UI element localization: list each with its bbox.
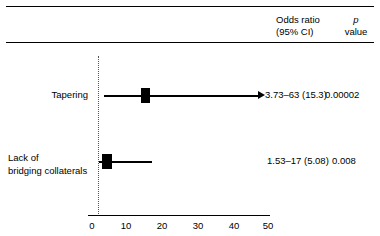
row-label-tapering: Tapering bbox=[0, 89, 88, 102]
cell-p-value-tapering: 0.00002 bbox=[325, 89, 359, 101]
cell-p-value-lack-of-bridging-collaterals: 0.008 bbox=[332, 155, 356, 167]
x-axis-tick-30: 30 bbox=[186, 220, 210, 232]
confidence-interval-arrow-tapering bbox=[258, 91, 265, 99]
plot-area: Tapering 3.73–63 (15.3) 0.00002 Lack of … bbox=[0, 0, 380, 236]
x-axis-line bbox=[88, 215, 270, 216]
cell-odds-ratio-tapering: 3.73–63 (15.3) bbox=[265, 89, 327, 101]
row-label-lack-of-bridging-collaterals-line2: bridging collaterals bbox=[8, 165, 88, 178]
x-axis-tick-10: 10 bbox=[114, 220, 138, 232]
row-label-tapering-line1: Tapering bbox=[0, 89, 88, 102]
x-axis-tick-20: 20 bbox=[150, 220, 174, 232]
row-label-lack-of-bridging-collaterals: Lack of bridging collaterals bbox=[0, 152, 88, 177]
reference-line bbox=[98, 56, 99, 216]
confidence-interval-line-tapering bbox=[104, 95, 260, 97]
x-axis-tick-50: 50 bbox=[256, 220, 280, 232]
point-estimate-marker-tapering bbox=[141, 88, 150, 103]
forest-plot-figure: Odds ratio (95% CI) p value Tapering 3.7… bbox=[0, 0, 380, 236]
x-axis-tick-0: 0 bbox=[80, 220, 104, 232]
point-estimate-marker-lack-of-bridging-collaterals bbox=[102, 154, 112, 169]
cell-odds-ratio-lack-of-bridging-collaterals: 1.53–17 (5.08) bbox=[267, 155, 329, 167]
x-axis-tick-40: 40 bbox=[222, 220, 246, 232]
row-label-lack-of-bridging-collaterals-line1: Lack of bbox=[8, 152, 88, 165]
